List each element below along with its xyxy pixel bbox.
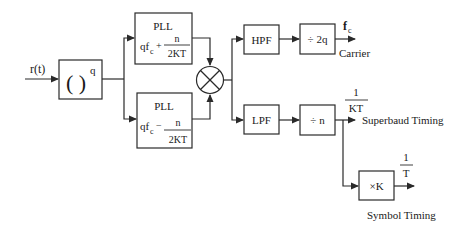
pll-lower-sub: c bbox=[150, 127, 154, 136]
times-k-label: ×K bbox=[369, 180, 383, 192]
symbol-num: 1 bbox=[403, 151, 409, 163]
hpf-block: HPF bbox=[244, 25, 279, 54]
lpf-label: LPF bbox=[252, 114, 271, 126]
times-k-block: ×K bbox=[359, 171, 394, 200]
input-label: r(t) bbox=[30, 62, 45, 76]
pll-upper-prefix: qf bbox=[140, 40, 150, 52]
wire-to-lpf bbox=[232, 80, 243, 120]
superbaud-label: Superbaud Timing bbox=[362, 114, 444, 126]
carrier-sub: c bbox=[348, 26, 352, 35]
power-block-exponent: q bbox=[90, 64, 96, 76]
hpf-label: HPF bbox=[251, 34, 271, 46]
pll-upper-sub: c bbox=[150, 47, 154, 56]
divide-n-label: ÷ n bbox=[310, 114, 325, 126]
symbol-label: Symbol Timing bbox=[367, 209, 436, 221]
pll-upper-title: PLL bbox=[153, 20, 173, 32]
carrier-label: Carrier bbox=[339, 47, 370, 59]
power-block-label: ( ) bbox=[66, 70, 86, 95]
wire-to-hpf bbox=[232, 39, 243, 80]
pll-lower-num: n bbox=[176, 117, 181, 128]
pll-lower-block: PLL qf c − n 2KT bbox=[137, 93, 192, 148]
pll-upper-den: 2KT bbox=[168, 48, 186, 59]
pll-lower-op: − bbox=[156, 120, 162, 131]
pll-upper-num: n bbox=[175, 33, 180, 44]
divide-n-block: ÷ n bbox=[300, 105, 335, 135]
symbol-den: T bbox=[403, 167, 410, 179]
wire-to-pll-lower bbox=[124, 79, 136, 119]
mixer-multiplier-icon bbox=[197, 67, 224, 94]
input-signal: r(t) bbox=[25, 62, 58, 79]
pll-lower-prefix: qf bbox=[140, 120, 150, 132]
pll-lower-title: PLL bbox=[154, 100, 174, 112]
superbaud-num: 1 bbox=[353, 86, 359, 98]
wire-to-pll-upper bbox=[124, 38, 134, 79]
pll-upper-block: PLL qf c + n 2KT bbox=[135, 13, 192, 64]
wire-to-times-k bbox=[343, 120, 358, 186]
lpf-block: LPF bbox=[244, 105, 279, 134]
pll-lower-den: 2KT bbox=[169, 134, 187, 145]
divide-2q-block: ÷ 2q bbox=[300, 24, 335, 54]
pll-upper-op: + bbox=[156, 40, 162, 51]
wire-pll-upper-to-mixer bbox=[192, 38, 210, 65]
superbaud-den: KT bbox=[349, 102, 364, 114]
power-block: ( ) q bbox=[59, 60, 102, 99]
superbaud-output: 1 KT Superbaud Timing bbox=[345, 86, 444, 126]
divide-2q-label: ÷ 2q bbox=[308, 33, 328, 45]
wire-pll-lower-to-mixer bbox=[192, 95, 210, 119]
block-diagram: r(t) ( ) q PLL qf c + n 2KT PLL qf c − n… bbox=[0, 0, 469, 232]
